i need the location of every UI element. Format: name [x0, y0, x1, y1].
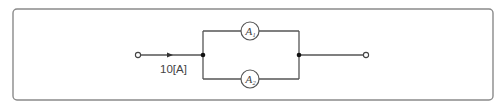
input-current-label: 10[A]	[160, 63, 187, 75]
ammeter-a2: A 2	[241, 70, 259, 88]
output-terminal-icon	[363, 52, 368, 57]
left-junction-node-icon	[201, 53, 206, 58]
ammeter-a1: A 1	[241, 22, 259, 40]
ammeter-a2-label: A	[245, 73, 253, 85]
ammeter-a1-label: A	[245, 25, 253, 37]
circuit-diagram: 10[A] A 1 A 2	[0, 0, 503, 109]
ammeter-a1-subscript: 1	[253, 31, 256, 38]
right-junction-node-icon	[297, 53, 302, 58]
input-terminal-icon	[135, 52, 140, 57]
